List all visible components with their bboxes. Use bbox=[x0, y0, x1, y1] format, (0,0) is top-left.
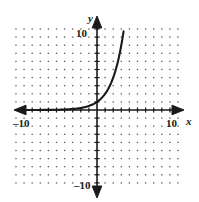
x-axis-name-label: x bbox=[186, 116, 192, 127]
y-axis bbox=[92, 16, 102, 198]
coordinate-plane-svg bbox=[0, 0, 199, 202]
y-axis-tick-label-neg10: –10 bbox=[74, 180, 91, 191]
graph-figure: 10 –10 –10 10 y x bbox=[0, 0, 199, 202]
x-axis-tick-label-neg10: –10 bbox=[13, 118, 30, 129]
y-axis-tick-label-10: 10 bbox=[76, 28, 87, 39]
exponential-curve bbox=[21, 31, 124, 110]
x-axis-tick-label-10: 10 bbox=[166, 118, 177, 129]
y-axis-name-label: y bbox=[88, 13, 93, 24]
